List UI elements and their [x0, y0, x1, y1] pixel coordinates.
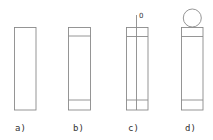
panel-c-label: c) — [128, 123, 139, 133]
panel-d-circle — [183, 9, 201, 27]
panel-d-label: d) — [185, 123, 196, 133]
panel-c-axis-mark: 0 — [139, 12, 143, 20]
panel-d-rect — [182, 28, 204, 111]
panel-b-rect — [69, 28, 91, 111]
panel-a-rect — [15, 28, 37, 111]
diagram-canvas: 0 a) b) c) d) — [0, 0, 213, 140]
panel-c-rect — [127, 28, 149, 111]
panel-b-label: b) — [73, 123, 84, 133]
panel-a-label: a) — [15, 123, 26, 133]
